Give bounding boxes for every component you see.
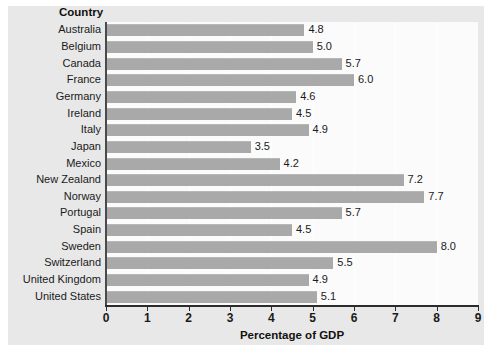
bar-value-label: 4.9: [313, 273, 328, 285]
gridline: [395, 22, 396, 305]
bar: [106, 74, 354, 86]
bar: [106, 291, 317, 303]
bar: [106, 108, 292, 120]
category-label: Portugal: [0, 206, 101, 218]
bar-value-label: 5.7: [346, 206, 361, 218]
category-label: United Kingdom: [0, 273, 101, 285]
country-column-header: Country: [59, 6, 103, 18]
bar: [106, 124, 309, 136]
bar-value-label: 7.7: [428, 190, 443, 202]
bar-value-label: 4.8: [308, 23, 323, 35]
bar-value-label: 5.7: [346, 57, 361, 69]
x-tick-label: 3: [215, 311, 245, 325]
category-label: Canada: [0, 57, 101, 69]
category-label: Sweden: [0, 240, 101, 252]
category-label: Ireland: [0, 107, 101, 119]
bar: [106, 91, 296, 103]
bar: [106, 41, 313, 53]
category-label: United States: [0, 290, 101, 302]
x-tick-label: 9: [463, 311, 492, 325]
bar-value-label: 4.2: [284, 157, 299, 169]
category-label: France: [0, 73, 101, 85]
x-tick-label: 0: [91, 311, 121, 325]
bar-value-label: 4.9: [313, 123, 328, 135]
x-tick-label: 4: [256, 311, 286, 325]
bar-value-label: 3.5: [255, 140, 270, 152]
x-tick-label: 6: [339, 311, 369, 325]
bar: [106, 141, 251, 153]
bar: [106, 224, 292, 236]
x-tick-label: 1: [132, 311, 162, 325]
category-label: New Zealand: [0, 173, 101, 185]
bar-value-label: 4.5: [296, 107, 311, 119]
category-label: Belgium: [0, 40, 101, 52]
category-label: Spain: [0, 223, 101, 235]
x-tick-label: 5: [298, 311, 328, 325]
category-label: Switzerland: [0, 256, 101, 268]
bar: [106, 257, 333, 269]
category-label: Mexico: [0, 157, 101, 169]
x-tick-label: 7: [380, 311, 410, 325]
x-tick-label: 2: [174, 311, 204, 325]
category-label: Italy: [0, 123, 101, 135]
bar-value-label: 4.6: [300, 90, 315, 102]
category-label: Australia: [0, 23, 101, 35]
bar: [106, 191, 424, 203]
category-label: Norway: [0, 190, 101, 202]
y-axis-line: [105, 22, 107, 305]
bar-value-label: 7.2: [408, 173, 423, 185]
bar: [106, 274, 309, 286]
x-tick-label: 8: [422, 311, 452, 325]
category-label: Germany: [0, 90, 101, 102]
chart-figure: 0123456789 AustraliaBelgiumCanadaFranceG…: [0, 0, 492, 357]
bar: [106, 58, 342, 70]
gridline: [437, 22, 438, 305]
x-axis-title: Percentage of GDP: [106, 329, 478, 341]
bar: [106, 207, 342, 219]
bar: [106, 24, 304, 36]
bar: [106, 241, 437, 253]
bar-value-label: 5.5: [337, 256, 352, 268]
bar-value-label: 6.0: [358, 73, 373, 85]
bar-value-label: 5.0: [317, 40, 332, 52]
bar-value-label: 8.0: [441, 240, 456, 252]
bar: [106, 174, 404, 186]
bar-value-label: 5.1: [321, 290, 336, 302]
bar: [106, 158, 280, 170]
category-label: Japan: [0, 140, 101, 152]
bar-value-label: 4.5: [296, 223, 311, 235]
x-axis-line: [105, 305, 479, 307]
